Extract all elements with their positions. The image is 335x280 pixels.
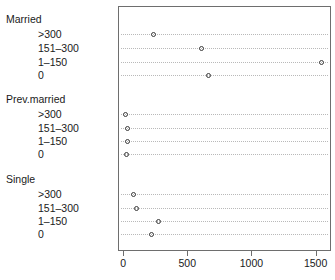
- x-axis-tick: [316, 251, 317, 256]
- gridline-row: [121, 75, 328, 76]
- gridline-row: [121, 208, 328, 209]
- category-label-column: Married >300 151–300 1–150 0 Prev.marrie…: [0, 0, 118, 280]
- x-axis-tick-label: 1000: [240, 258, 263, 269]
- category-label-prev-0: 0: [38, 149, 44, 160]
- x-axis-tick: [187, 251, 188, 256]
- x-axis-tick: [251, 251, 252, 256]
- data-point: [206, 73, 211, 78]
- data-point: [319, 60, 324, 65]
- data-point: [151, 32, 156, 37]
- category-label-single-1-150: 1–150: [38, 216, 67, 227]
- category-label-married-1-150: 1–150: [38, 57, 67, 68]
- group-label-married: Married: [6, 14, 42, 25]
- data-point: [134, 206, 139, 211]
- category-label-prev-1-150: 1–150: [38, 136, 67, 147]
- category-label-married-gt300: >300: [38, 29, 62, 40]
- gridline-row: [121, 48, 328, 49]
- category-label-single-gt300: >300: [38, 189, 62, 200]
- category-label-prev-gt300: >300: [38, 109, 62, 120]
- data-point: [125, 139, 130, 144]
- x-axis-tick-label: 0: [120, 258, 126, 269]
- data-point: [156, 219, 161, 224]
- gridline-row: [121, 62, 328, 63]
- gridline-row: [121, 221, 328, 222]
- x-axis: 050010001500: [118, 251, 331, 280]
- data-point: [131, 192, 136, 197]
- group-label-prev-married: Prev.married: [6, 94, 65, 105]
- gridline-row: [121, 154, 328, 155]
- x-axis-tick-label: 1500: [304, 258, 327, 269]
- category-label-prev-151-300: 151–300: [38, 123, 79, 134]
- gridline-row: [121, 194, 328, 195]
- gridline-row: [121, 128, 328, 129]
- data-point: [199, 46, 204, 51]
- plot-area: [119, 7, 330, 250]
- plot-panel: [118, 6, 331, 251]
- data-point: [123, 112, 128, 117]
- category-label-married-151-300: 151–300: [38, 43, 79, 54]
- x-axis-tick-label: 500: [179, 258, 197, 269]
- gridline-row: [121, 114, 328, 115]
- category-label-single-0: 0: [38, 229, 44, 240]
- gridline-row: [121, 141, 328, 142]
- x-axis-tick: [123, 251, 124, 256]
- group-label-single: Single: [6, 174, 35, 185]
- category-label-married-0: 0: [38, 70, 44, 81]
- data-point: [124, 152, 129, 157]
- data-point: [125, 126, 130, 131]
- data-point: [149, 232, 154, 237]
- dotchart-figure: Married >300 151–300 1–150 0 Prev.marrie…: [0, 0, 335, 280]
- category-label-single-151-300: 151–300: [38, 203, 79, 214]
